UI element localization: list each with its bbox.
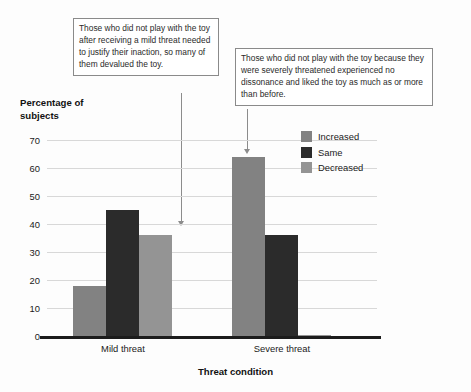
gridline — [47, 252, 377, 253]
bar-chart-figure: Those who did not play with the toy afte… — [0, 0, 471, 392]
legend-item-increased: Increased — [301, 131, 363, 142]
y-axis-tick-label: 60 — [30, 163, 40, 174]
bar-severe-threat-same — [265, 235, 298, 336]
y-axis-tick-label: 30 — [30, 247, 40, 258]
y-axis-tick-label: 20 — [30, 275, 40, 286]
bar-severe-threat-increased — [232, 157, 265, 336]
y-axis-title-line1: Percentage of — [20, 97, 140, 110]
legend-swatch-decreased — [301, 162, 312, 173]
gridline — [47, 280, 377, 281]
legend-item-same: Same — [301, 147, 363, 158]
chart-legend: IncreasedSameDecreased — [301, 131, 363, 178]
gridline — [47, 224, 377, 225]
y-axis-tick-label: 70 — [30, 135, 40, 146]
legend-item-decreased: Decreased — [301, 162, 363, 173]
x-axis-baseline — [40, 336, 381, 339]
y-axis-tick-label: 40 — [30, 219, 40, 230]
y-axis-tick-label: 50 — [30, 191, 40, 202]
annotation-callout-mild: Those who did not play with the toy afte… — [73, 18, 219, 76]
legend-swatch-same — [301, 147, 312, 158]
bar-mild-threat-decreased — [139, 235, 172, 336]
x-axis-title: Threat condition — [0, 366, 471, 377]
y-axis-title-line2: subjects — [20, 110, 140, 123]
category-label-mild-threat: Mild threat — [73, 343, 173, 354]
legend-label: Same — [318, 147, 343, 158]
bar-mild-threat-increased — [73, 286, 106, 336]
y-axis-title: Percentage of subjects — [20, 97, 140, 123]
legend-label: Increased — [318, 131, 359, 142]
legend-label: Decreased — [318, 162, 363, 173]
gridline — [47, 196, 377, 197]
category-label-severe-threat: Severe threat — [232, 343, 332, 354]
annotation-callout-severe: Those who did not play with the toy beca… — [235, 48, 433, 106]
y-axis-tick-label: 10 — [30, 303, 40, 314]
legend-swatch-increased — [301, 131, 312, 142]
bar-mild-threat-same — [106, 210, 139, 336]
